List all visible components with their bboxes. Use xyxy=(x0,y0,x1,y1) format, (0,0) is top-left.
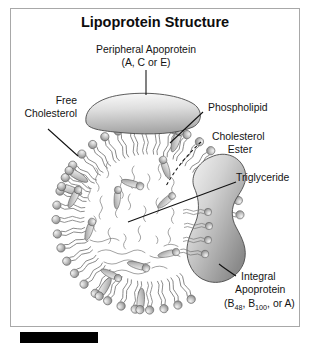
peripheral-apoprotein-shape xyxy=(86,93,201,134)
label-phospholipid: Phospholipid xyxy=(208,102,268,113)
apo-b-close: , or A) xyxy=(267,298,295,309)
peripheral-apoprotein-line2: (A, C or E) xyxy=(121,57,170,68)
apo-b100-subscript: 100 xyxy=(255,303,267,312)
integral-apoprotein-line3: (B48, B100, or A) xyxy=(224,298,295,312)
figure-root: Lipoprotein Structure xyxy=(0,0,310,343)
page-title: Lipoprotein Structure xyxy=(81,14,229,30)
lipoprotein-diagram: Lipoprotein Structure xyxy=(0,0,310,343)
label-free-cholesterol: Free Cholesterol xyxy=(24,95,77,119)
apo-b-mid: , B xyxy=(242,298,255,309)
peripheral-apoprotein-line1: Peripheral Apoprotein xyxy=(96,44,196,55)
free-cholesterol-line1: Free xyxy=(56,95,78,106)
label-triglyceride: Triglyceride xyxy=(236,172,290,183)
label-peripheral-apoprotein: Peripheral Apoprotein (A, C or E) xyxy=(96,44,196,68)
cholesterol-ester-line2: Ester xyxy=(228,144,253,155)
leader-free-cholesterol xyxy=(48,129,78,156)
apo-b-open: (B xyxy=(224,298,234,309)
apo-b48-subscript: 48 xyxy=(234,303,242,312)
free-cholesterol-line2: Cholesterol xyxy=(24,108,77,119)
integral-apoprotein-line2: Apoprotein xyxy=(235,284,285,295)
label-cholesterol-ester: Cholesterol Ester xyxy=(212,131,265,155)
label-integral-apoprotein: Integral Apoprotein (B48, B100, or A) xyxy=(224,271,295,312)
cholesterol-ester-line1: Cholesterol xyxy=(212,131,265,142)
integral-apoprotein-line1: Integral xyxy=(241,271,276,282)
